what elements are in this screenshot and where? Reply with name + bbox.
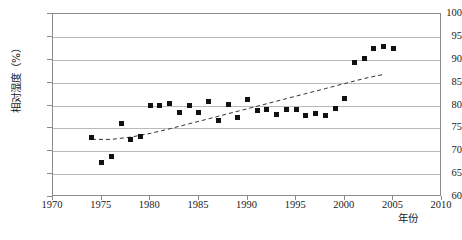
data-point bbox=[274, 112, 279, 117]
x-tick bbox=[295, 196, 296, 200]
data-point bbox=[235, 115, 240, 120]
data-point bbox=[284, 107, 289, 112]
data-point bbox=[157, 103, 162, 108]
data-point bbox=[187, 103, 192, 108]
data-point bbox=[381, 44, 386, 49]
x-tick bbox=[441, 196, 442, 200]
plot-area bbox=[52, 13, 441, 196]
data-point bbox=[303, 113, 308, 118]
x-tick bbox=[52, 196, 53, 200]
x-tick-label: 1975 bbox=[81, 199, 121, 210]
x-tick-label: 2010 bbox=[421, 199, 461, 210]
data-point bbox=[177, 110, 182, 115]
data-point bbox=[255, 108, 260, 113]
gridline bbox=[53, 106, 440, 107]
x-tick bbox=[344, 196, 345, 200]
data-point bbox=[323, 113, 328, 118]
data-point bbox=[294, 107, 299, 112]
data-point bbox=[99, 160, 104, 165]
data-point bbox=[119, 121, 124, 126]
data-point bbox=[313, 111, 318, 116]
data-point bbox=[342, 96, 347, 101]
data-point bbox=[89, 135, 94, 140]
x-tick bbox=[101, 196, 102, 200]
gridline bbox=[53, 37, 440, 38]
data-point bbox=[245, 97, 250, 102]
data-point bbox=[226, 102, 231, 107]
y-axis-title: 相对湿度（%） bbox=[10, 35, 22, 121]
data-point bbox=[148, 103, 153, 108]
gridline bbox=[53, 83, 440, 84]
x-tick bbox=[198, 196, 199, 200]
data-point bbox=[196, 110, 201, 115]
data-point bbox=[333, 106, 338, 111]
data-point bbox=[206, 99, 211, 104]
x-axis-title: 年份 bbox=[398, 213, 418, 224]
data-point bbox=[216, 118, 221, 123]
gridline bbox=[53, 128, 440, 129]
x-tick bbox=[247, 196, 248, 200]
data-point bbox=[352, 60, 357, 65]
data-point bbox=[167, 101, 172, 106]
x-tick-label: 2005 bbox=[372, 199, 412, 210]
data-point bbox=[138, 134, 143, 139]
x-tick-label: 1995 bbox=[275, 199, 315, 210]
x-tick-label: 2000 bbox=[324, 199, 364, 210]
data-point bbox=[264, 107, 269, 112]
data-point bbox=[391, 46, 396, 51]
x-tick bbox=[149, 196, 150, 200]
x-tick-label: 1980 bbox=[129, 199, 169, 210]
gridline bbox=[53, 60, 440, 61]
x-tick-label: 1990 bbox=[227, 199, 267, 210]
gridline bbox=[53, 151, 440, 152]
data-point bbox=[362, 56, 367, 61]
data-point bbox=[109, 154, 114, 159]
relative-humidity-scatter-chart: 相对湿度（%） 年份 6065707580859095100 197019751… bbox=[0, 0, 462, 240]
x-tick bbox=[392, 196, 393, 200]
x-tick-label: 1985 bbox=[178, 199, 218, 210]
gridline bbox=[53, 174, 440, 175]
x-tick-label: 1970 bbox=[32, 199, 72, 210]
data-point bbox=[128, 137, 133, 142]
data-point bbox=[371, 46, 376, 51]
